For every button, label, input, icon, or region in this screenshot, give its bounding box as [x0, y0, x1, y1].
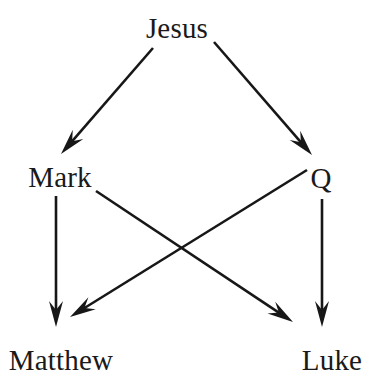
synoptic-problem-diagram: Jesus Mark Q Matthew Luke	[0, 0, 378, 382]
edge-q-to-matthew	[70, 170, 307, 317]
arrowhead-mark-to-luke	[267, 302, 293, 322]
node-label-mark: Mark	[28, 161, 92, 193]
node-label-q: Q	[310, 162, 331, 194]
edge-mark-to-luke	[96, 191, 293, 322]
node-label-jesus: Jesus	[146, 12, 208, 44]
edge-q-to-luke	[315, 199, 329, 327]
edge-mark-to-matthew	[49, 196, 63, 327]
diagram-canvas: Jesus Mark Q Matthew Luke	[0, 0, 378, 382]
edge-line-mark-to-luke	[96, 191, 280, 313]
node-label-luke: Luke	[302, 344, 362, 376]
edge-line-q-to-matthew	[84, 170, 307, 309]
edge-line-jesus-to-q	[214, 42, 301, 143]
edge-jesus-to-q	[214, 42, 312, 155]
node-label-matthew: Matthew	[9, 344, 114, 376]
edge-line-jesus-to-mark	[72, 48, 153, 142]
arrowhead-q-to-matthew	[70, 297, 96, 317]
edge-jesus-to-mark	[61, 48, 153, 154]
